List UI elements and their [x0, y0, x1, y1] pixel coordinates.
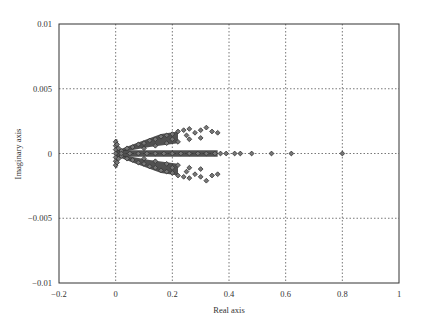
data-point-real-axis [249, 151, 254, 156]
data-point-real-axis [238, 151, 243, 156]
data-point-real-axis [269, 151, 274, 156]
x-tick-label: 0.4 [224, 289, 235, 299]
x-tick-label: 0.8 [337, 289, 348, 299]
data-point-upper-branch [210, 129, 215, 134]
y-tick-labels: −0.01−0.00500.0050.01 [28, 19, 52, 288]
data-point-real-axis [224, 151, 229, 156]
data-point-lower-branch [187, 176, 192, 181]
y-tick-label: 0 [48, 149, 52, 159]
data-point-upper-branch [184, 133, 189, 138]
x-tick-label: 0.6 [280, 289, 291, 299]
data-point-lower-branch [181, 174, 186, 179]
x-tick-label: −0.2 [51, 289, 66, 299]
data-point-upper-branch [215, 130, 220, 135]
y-tick-label: −0.01 [32, 278, 52, 288]
scatter-chart: −0.200.20.40.60.81 −0.01−0.00500.0050.01… [0, 0, 424, 322]
data-point-upper-branch [187, 137, 192, 142]
y-tick-label: 0.005 [33, 84, 52, 94]
data-point-real-axis [289, 151, 294, 156]
data-point-lower-branch [184, 169, 189, 174]
data-point-upper-branch [193, 130, 198, 135]
data-point-upper-branch [198, 136, 203, 141]
data-point-upper-branch [198, 128, 203, 133]
y-tick-label: −0.005 [28, 213, 52, 223]
data-point-upper-branch [187, 126, 192, 131]
data-point-lower-branch [187, 165, 192, 170]
data-point-lower-branch [198, 174, 203, 179]
x-tick-label: 1 [397, 289, 401, 299]
x-tick-label: 0.2 [167, 289, 178, 299]
data-point-lower-branch [204, 178, 209, 183]
data-point-real-axis [218, 151, 223, 156]
x-tick-label: 0 [114, 289, 118, 299]
x-axis-label: Real axis [213, 305, 244, 315]
data-point-lower-branch [215, 172, 220, 177]
x-tick-labels: −0.200.20.40.60.81 [51, 289, 401, 299]
data-point-real-axis [340, 151, 345, 156]
y-tick-label: 0.01 [37, 19, 52, 29]
data-point-real-axis [232, 151, 237, 156]
y-axis-label: Imaginary axis [13, 129, 23, 180]
data-point-lower-branch [198, 167, 203, 172]
data-point-upper-branch [181, 128, 186, 133]
data-point-lower-branch [193, 172, 198, 177]
data-point-upper-branch [204, 125, 209, 130]
data-point-lower-branch [210, 173, 215, 178]
